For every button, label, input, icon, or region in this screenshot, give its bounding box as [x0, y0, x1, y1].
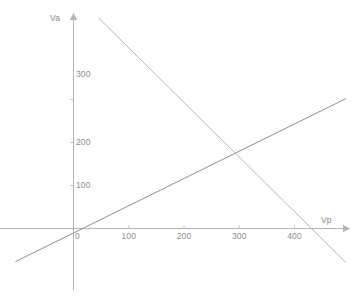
chart-container: Va Vp 0 100 200 300 100 200 300 400: [0, 0, 359, 297]
x-tick-label-200: 200: [169, 231, 199, 241]
y-tick-label-200: 200: [76, 137, 90, 147]
x-tick-label-300: 300: [224, 231, 254, 241]
x-axis-title: Vp: [321, 215, 332, 225]
y-axis-title: Va: [50, 13, 60, 23]
chart-plot-area: [0, 0, 359, 297]
y-tick-label-300: 300: [76, 69, 90, 79]
origin-tick-label: 0: [75, 231, 80, 241]
x-tick-label-100: 100: [114, 231, 144, 241]
y-axis: [70, 13, 77, 290]
series-line-falling: [98, 18, 346, 263]
y-tick-label-100: 100: [76, 180, 90, 190]
x-tick-label-400: 400: [280, 231, 310, 241]
